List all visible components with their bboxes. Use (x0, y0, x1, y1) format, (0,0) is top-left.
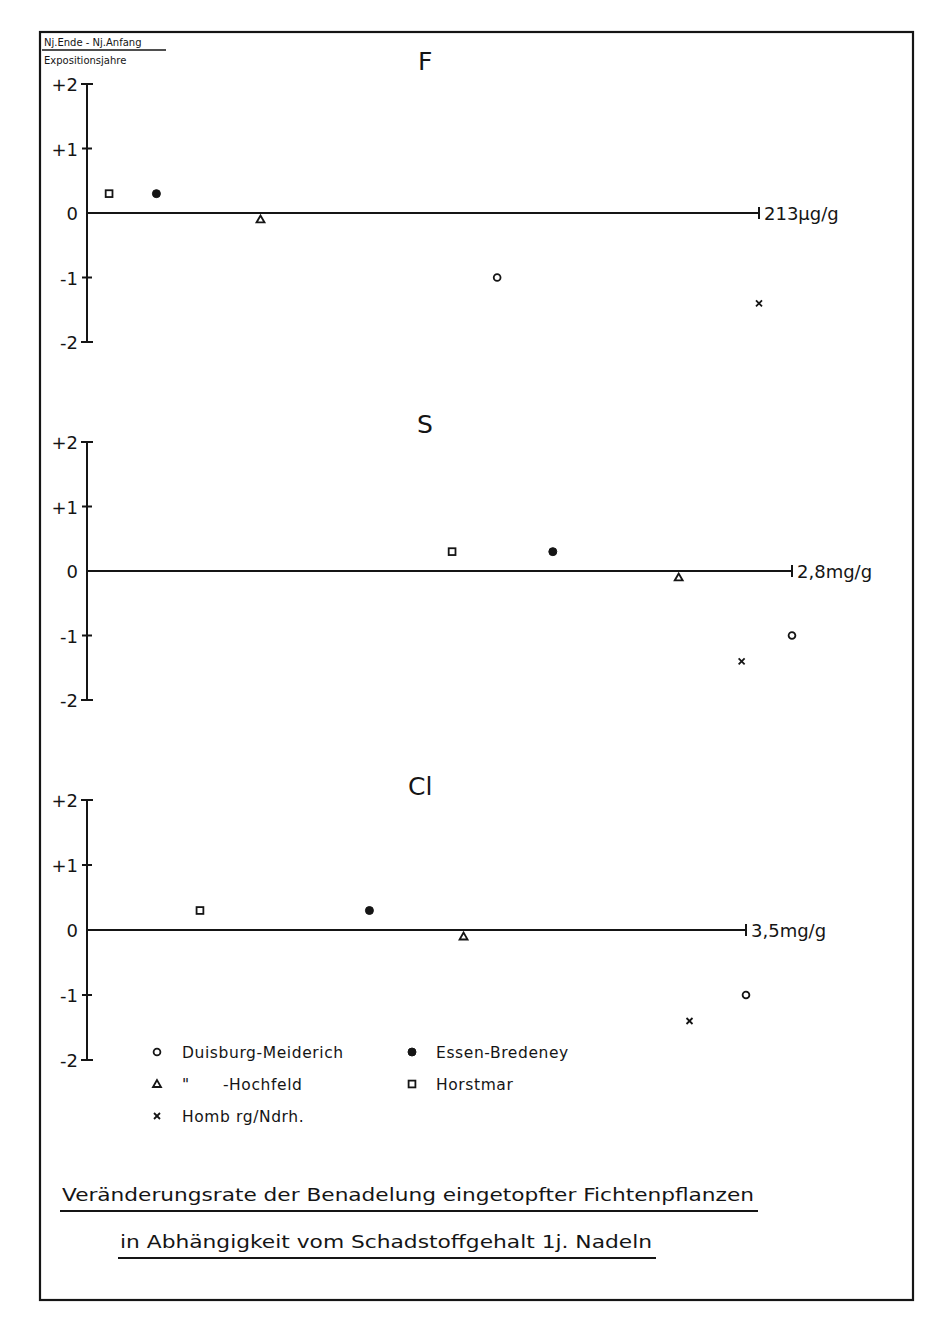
panels: F+2+10-1-2213µg/gS+2+10-1-22,8mg/gCl+2+1… (51, 47, 872, 1071)
panel-title-cl: Cl (408, 772, 432, 801)
y-label-denominator: Expositionsjahre (44, 55, 126, 66)
figure: Nj.Ende - Nj.Anfang Expositionsjahre F+2… (0, 0, 936, 1325)
legend-label: Essen-Bredeney (436, 1044, 569, 1062)
y-tick-label: 0 (67, 561, 78, 582)
y-tick-label: +2 (51, 432, 78, 453)
y-tick-label: +1 (51, 497, 78, 518)
data-point-open-triangle (257, 215, 265, 222)
legend-label: Horstmar (436, 1076, 513, 1094)
data-point-cross (739, 658, 745, 664)
legend: Duisburg-MeiderichEssen-Bredeney" -Hochf… (153, 1044, 569, 1126)
legend-item: Homb rg/Ndrh. (154, 1108, 304, 1126)
data-point-open-square (449, 548, 456, 555)
legend-label: " -Hochfeld (182, 1076, 303, 1094)
panel-f: F+2+10-1-2213µg/g (51, 47, 838, 353)
data-point-open-triangle (675, 573, 683, 580)
reference-value-cl: 3,5mg/g (751, 920, 826, 941)
data-point-open-circle (743, 992, 750, 999)
caption-line-2: in Abhängigkeit vom Schadstoffgehalt 1j.… (120, 1232, 652, 1252)
legend-marker-open-triangle (153, 1080, 161, 1087)
y-tick-label: +1 (51, 855, 78, 876)
legend-marker-filled-circle (408, 1048, 416, 1056)
legend-marker-open-square (409, 1081, 416, 1088)
y-tick-label: -2 (60, 690, 78, 711)
data-point-filled-circle (152, 190, 160, 198)
legend-label: Homb rg/Ndrh. (182, 1108, 304, 1126)
data-point-open-circle (494, 274, 501, 281)
legend-item: Horstmar (409, 1076, 514, 1094)
caption-line-1: Veränderungsrate der Benadelung eingetop… (62, 1185, 754, 1205)
y-tick-label: -1 (60, 626, 78, 647)
panel-title-f: F (418, 47, 432, 76)
legend-item: " -Hochfeld (153, 1076, 303, 1094)
y-tick-label: +2 (51, 74, 78, 95)
y-tick-label: -1 (60, 985, 78, 1006)
legend-marker-open-circle (154, 1049, 161, 1056)
caption: Veränderungsrate der Benadelung eingetop… (60, 1185, 758, 1258)
y-label-numerator: Nj.Ende - Nj.Anfang (44, 37, 142, 48)
panel-s: S+2+10-1-22,8mg/g (51, 410, 872, 711)
data-point-open-square (197, 907, 204, 914)
y-tick-label: +1 (51, 139, 78, 160)
panel-title-s: S (417, 410, 433, 439)
data-point-open-triangle (460, 933, 468, 940)
data-point-cross (756, 300, 762, 306)
y-tick-label: 0 (67, 920, 78, 941)
y-tick-label: +2 (51, 790, 78, 811)
data-point-filled-circle (365, 907, 373, 915)
panel-cl: Cl+2+10-1-23,5mg/g (51, 772, 826, 1071)
y-tick-label: -1 (60, 268, 78, 289)
y-tick-label: -2 (60, 332, 78, 353)
y-axis-label: Nj.Ende - Nj.Anfang Expositionsjahre (42, 37, 166, 66)
legend-item: Duisburg-Meiderich (154, 1044, 344, 1062)
reference-value-s: 2,8mg/g (797, 561, 872, 582)
legend-marker-cross (154, 1113, 160, 1119)
reference-value-f: 213µg/g (764, 203, 839, 224)
data-point-open-square (106, 190, 113, 197)
legend-label: Duisburg-Meiderich (182, 1044, 344, 1062)
legend-item: Essen-Bredeney (408, 1044, 569, 1062)
data-point-filled-circle (549, 548, 557, 556)
data-point-open-circle (789, 632, 796, 639)
y-tick-label: -2 (60, 1050, 78, 1071)
data-point-cross (687, 1018, 693, 1024)
y-tick-label: 0 (67, 203, 78, 224)
